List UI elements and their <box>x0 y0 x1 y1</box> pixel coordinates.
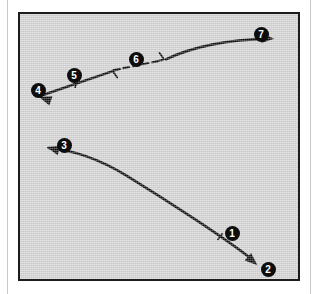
marker-label-2[interactable]: 2 <box>261 262 276 277</box>
marker-label-1[interactable]: 1 <box>225 226 240 241</box>
barb-left-of-dashed <box>113 69 121 78</box>
diagram-frame: 1234567 <box>18 12 300 281</box>
upper-right-trace <box>166 39 268 60</box>
lower-trace <box>49 148 251 258</box>
marker-label-6[interactable]: 6 <box>129 52 144 67</box>
right-margin-rule <box>310 0 311 294</box>
marker-label-3[interactable]: 3 <box>57 138 72 153</box>
marker-label-5[interactable]: 5 <box>67 68 82 83</box>
upper-left-trace-arrowhead-end <box>39 96 53 105</box>
marker-label-7[interactable]: 7 <box>254 27 269 42</box>
marker-label-4[interactable]: 4 <box>31 83 46 98</box>
figure-root: 1234567 <box>0 0 319 294</box>
left-margin-rule <box>7 0 8 294</box>
